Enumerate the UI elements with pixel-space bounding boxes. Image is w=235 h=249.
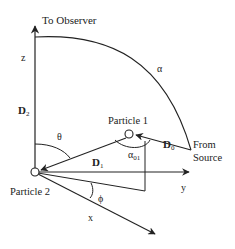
particle-1 — [125, 130, 133, 138]
d1-vector — [41, 138, 126, 170]
particle-2 — [31, 168, 39, 176]
from-source-label-line2: Source — [193, 152, 222, 163]
alpha01-label: α01 — [128, 149, 141, 162]
d0-label: D0 — [163, 138, 175, 152]
z-axis-label: z — [21, 52, 26, 63]
to-observer-label: To Observer — [42, 14, 97, 26]
particle-1-label: Particle 1 — [108, 115, 148, 126]
x-axis-label: x — [88, 212, 93, 223]
d1-label: D1 — [92, 156, 104, 170]
theta-label: θ — [57, 131, 62, 142]
phi-arc — [90, 183, 93, 198]
scattering-geometry-diagram: To Observer z y x α θ ϕ α01 D0 D1 D2 Par… — [0, 0, 235, 249]
particle-2-label: Particle 2 — [10, 186, 50, 197]
d2-label: D2 — [18, 104, 30, 118]
theta-arc — [35, 144, 70, 158]
phi-label: ϕ — [98, 193, 103, 204]
y-axis-label: y — [181, 182, 186, 193]
alpha-label: α — [157, 63, 163, 74]
from-source-label-line1: From — [193, 139, 216, 150]
